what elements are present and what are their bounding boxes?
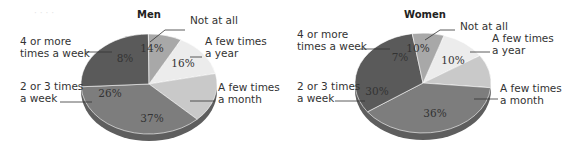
slice-value-label: 7%	[392, 51, 409, 63]
category-label: A few times	[492, 32, 554, 44]
slice-value-label: 10%	[441, 54, 464, 66]
slice-value-label: 10%	[406, 42, 429, 54]
category-label: 4 or more	[297, 28, 348, 40]
category-label: A few times	[218, 81, 280, 93]
slice-value-label: 14%	[140, 42, 163, 54]
category-label: times a week	[20, 47, 91, 59]
chart-title: Men	[137, 9, 161, 20]
slice-value-label: 30%	[365, 85, 388, 97]
svg-text:· · · ·: · · · ·	[34, 8, 54, 18]
slice-value-label: 26%	[98, 87, 121, 99]
category-label: a week	[297, 92, 335, 104]
pie-men: Men14%16%37%26%8%Not at allA few timesa …	[20, 9, 280, 141]
category-label: 4 or more	[20, 35, 71, 47]
slice-value-label: 8%	[117, 52, 134, 64]
chart-title: Women	[404, 9, 446, 20]
category-label: a year	[205, 47, 239, 59]
category-label: a year	[492, 44, 526, 56]
category-label: Not at all	[190, 14, 238, 26]
category-label: a week	[20, 92, 58, 104]
category-label: times a week	[297, 40, 368, 52]
pie-slice-2-or-3-times-a-week	[81, 34, 149, 87]
category-label: 2 or 3 times	[297, 80, 360, 92]
category-label: a month	[218, 93, 262, 105]
slice-value-label: 16%	[171, 57, 194, 69]
category-label: a month	[500, 94, 544, 106]
pie-women: Women10%10%36%30%7%Not at allA few times…	[297, 9, 562, 140]
category-label: 2 or 3 times	[20, 80, 83, 92]
slice-value-label: 36%	[423, 107, 446, 119]
slice-value-label: 37%	[140, 112, 163, 124]
category-label: A few times	[205, 35, 267, 47]
pie-charts: · · · ·Men14%16%37%26%8%Not at allA few …	[0, 0, 579, 162]
category-label: Not at all	[460, 20, 508, 32]
category-label: A few times	[500, 82, 562, 94]
